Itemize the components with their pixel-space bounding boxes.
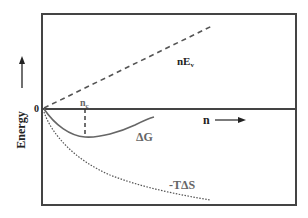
nEv-subscript: v: [190, 61, 194, 69]
nEv-label: nEv: [177, 55, 194, 69]
nEv-curve: [44, 26, 212, 108]
minus-TdeltaS-label: -TΔS: [169, 178, 196, 192]
energy-diagram: Energy 0 nc nEv n ΔG -TΔS: [0, 0, 308, 218]
y-axis-arrow-icon: [19, 56, 25, 64]
x-axis-label: n: [203, 113, 210, 127]
deltaG-label: ΔG: [136, 130, 153, 144]
critical-n-subscript: c: [86, 102, 89, 110]
y-axis-label: Energy: [14, 111, 28, 148]
x-axis-arrow-icon: [238, 117, 246, 123]
origin-label: 0: [34, 103, 39, 114]
